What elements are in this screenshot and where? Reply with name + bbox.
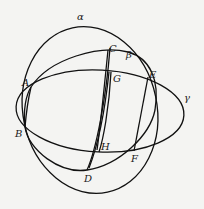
point-label-g: G bbox=[113, 73, 121, 84]
ellipse-gamma bbox=[14, 66, 186, 157]
label-alpha: α bbox=[77, 11, 84, 22]
ellipses-figure: α β γ A B C D E F G H bbox=[0, 0, 204, 209]
label-beta: β bbox=[125, 49, 132, 60]
point-label-b: B bbox=[14, 128, 22, 139]
point-label-d: D bbox=[83, 173, 92, 184]
point-label-h: H bbox=[100, 141, 110, 152]
segment-e-f bbox=[134, 77, 148, 151]
label-gamma: γ bbox=[184, 92, 190, 103]
diagram-canvas: α β γ A B C D E F G H bbox=[0, 0, 204, 209]
point-label-f: F bbox=[130, 153, 139, 164]
point-label-c: C bbox=[109, 43, 117, 54]
point-label-a: A bbox=[21, 77, 29, 88]
point-label-e: E bbox=[148, 69, 157, 80]
